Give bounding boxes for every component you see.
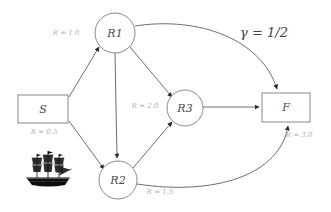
node-s-label: S	[39, 103, 47, 116]
node-r2-rate-label: R = 1.5	[146, 188, 174, 196]
gamma-parameter-label: γ = 1/2	[240, 25, 288, 40]
diagram-canvas: S R = 0.5 R1 R = 1.0 R2 R = 1.5 R3 R = 2…	[0, 0, 331, 212]
node-r1-label: R1	[106, 27, 122, 40]
node-r1-rate-label: R = 1.0	[52, 29, 80, 37]
sailing-ship-icon	[22, 150, 74, 190]
node-f-label: F	[281, 101, 290, 114]
edge-r1-to-r2	[115, 53, 117, 158]
edge-r2-to-r3	[133, 122, 172, 168]
edge-s-to-r1	[69, 47, 99, 97]
node-r2-label: R2	[109, 174, 125, 187]
node-r3-label: R3	[176, 102, 192, 115]
edge-s-to-r2	[69, 121, 104, 169]
node-f-rate-label: R = 3.0	[285, 131, 313, 139]
node-r3-rate-label: R = 2.0	[131, 102, 159, 110]
edge-r1-to-r3	[130, 47, 172, 97]
edge-r2-to-f-curved	[137, 126, 288, 187]
node-s-rate-label: R = 0.5	[30, 128, 58, 136]
